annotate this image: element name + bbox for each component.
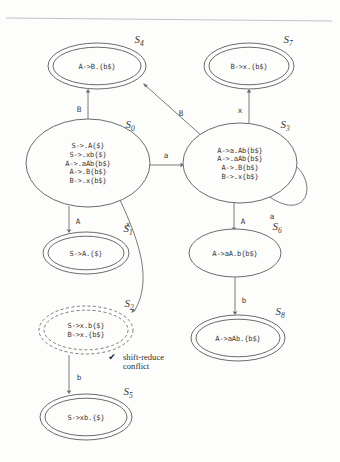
annotation-line-2: conflict: [123, 361, 150, 371]
state-name-label: S4: [134, 33, 144, 48]
edge-symbol-label: b: [77, 373, 82, 382]
state-name-label: S7: [283, 33, 293, 48]
page-rule: [6, 18, 332, 21]
state-node-s0[interactable]: S->.A{$}S->.xb{$}A->.aAb{b$}A->.B{b$}B->…: [26, 118, 150, 207]
check-mark-icon: ✔: [108, 352, 116, 362]
state-node-s8[interactable]: A->aAb.{b$}S8: [191, 305, 285, 361]
lr-item: S->A.{$}: [70, 249, 103, 258]
edge-s3-s4: B: [143, 83, 202, 136]
lr-item: A->B.{b$}: [78, 62, 115, 71]
annotations-layer: ✔shift-reduceconflict: [108, 352, 164, 371]
edge-symbol-label: A: [76, 217, 81, 226]
state-subscript: 5: [129, 391, 133, 400]
state-node-s7[interactable]: B->x.{b$}S7: [204, 33, 294, 89]
state-name-label: S1: [123, 222, 132, 237]
nodes-layer: S->.A{$}S->.xb{$}A->.aAb{b$}A->.B{b$}B->…: [26, 33, 297, 440]
edge-symbol-label: B: [77, 105, 82, 114]
state-subscript: 3: [285, 124, 290, 133]
edge-symbol-label: A: [241, 217, 246, 226]
edge-symbol-label: a: [164, 151, 169, 160]
shift-reduce-conflict-note: ✔shift-reduceconflict: [108, 352, 164, 371]
state-node-s1[interactable]: S->A.{$}S1: [43, 222, 133, 274]
lr-item: B->x.{b$}: [230, 62, 267, 71]
state-node-s3[interactable]: A->a.Ab{b$}A->.aAb{b$}A->.B{b$}B->.x{b$}…: [183, 118, 297, 203]
figure-canvas: BaAxbBxAab S->.A{$}S->.xb{$}A->.aAb{b$}A…: [0, 0, 340, 462]
edge-symbol-label: x: [238, 106, 243, 115]
state-name-label: S2: [124, 297, 134, 312]
edge-s6-s8: b: [233, 277, 247, 315]
edge-s3-s7: x: [238, 89, 252, 123]
edge-s0-s4: B: [77, 89, 91, 119]
edge-s0-s3: a: [150, 151, 184, 167]
state-node-s5[interactable]: S->xb.{$}S5: [40, 385, 133, 440]
state-subscript: 7: [289, 39, 293, 48]
lr-automaton-diagram: BaAxbBxAab S->.A{$}S->.xb{$}A->.aAb{b$}A…: [0, 0, 340, 462]
edge-s2-s5: b: [67, 355, 82, 394]
edge-symbol-label: b: [242, 296, 247, 305]
lr-item: A->aAb.{b$}: [215, 334, 260, 343]
lr-item: B->.x{b$}: [221, 172, 258, 181]
state-node-s6[interactable]: A->aA.b{b$}S6: [189, 220, 282, 277]
state-name-label: S5: [123, 385, 133, 400]
state-subscript: 8: [281, 311, 285, 320]
state-name-label: S8: [275, 305, 285, 320]
state-subscript: 1: [129, 228, 133, 237]
lr-item: B->x.{b$}: [67, 330, 104, 339]
state-name-label: S3: [280, 118, 290, 133]
edge-s0-s1: A: [67, 206, 81, 233]
edge-s3-s6: A: [232, 203, 246, 231]
state-node-s2[interactable]: S->x.b{$}B->x.{b$}S2: [39, 297, 134, 354]
lr-item: B->.x{b$}: [69, 176, 106, 185]
state-subscript: 4: [140, 39, 144, 48]
lr-item: S->xb.{$}: [67, 413, 104, 422]
state-subscript: 6: [278, 226, 282, 235]
state-subscript: 0: [131, 124, 135, 133]
state-subscript: 2: [130, 303, 134, 312]
state-name-label: S6: [272, 220, 282, 235]
state-node-s4[interactable]: A->B.{b$}S4: [48, 33, 146, 89]
lr-item: A->aA.b{b$}: [212, 249, 257, 258]
edge-symbol-label: B: [179, 109, 184, 118]
